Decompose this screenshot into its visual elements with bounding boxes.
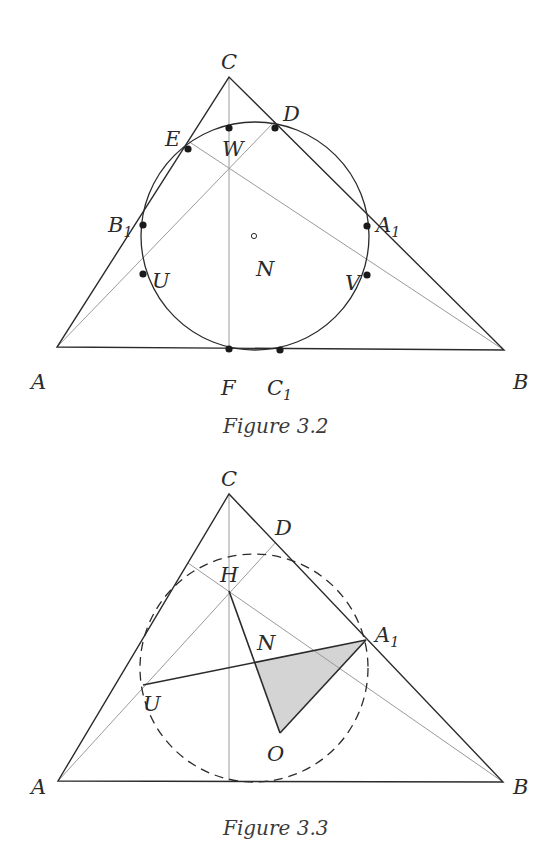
point-b1 [139,221,146,228]
label-c1: C1 [267,376,292,403]
point-a1 [363,222,370,229]
point-d [271,124,278,131]
label-h: H [219,563,239,587]
label-u: U [143,692,162,716]
label-c: C [221,467,237,491]
label-o: O [267,742,284,766]
label-b: B [512,370,528,394]
altitude-a [58,542,276,781]
label-e: E [164,127,180,151]
label-a: A [29,370,46,394]
label-v: V [345,271,362,295]
point-e [184,145,191,152]
label-a1: A1 [373,623,399,650]
label-d: D [274,516,292,540]
label-b1: B1 [107,213,132,240]
label-b: B [512,775,528,799]
center-n-point [251,233,256,238]
label-a: A [29,775,46,799]
label-c: C [221,50,237,74]
figures-canvas: C D E W B1 A1 U V N A B F C1 Figure 3.2 … [0,0,549,844]
point-v [363,271,370,278]
label-f: F [220,376,237,400]
label-n: N [256,631,276,655]
label-a1: A1 [374,213,400,240]
label-w: W [222,137,246,161]
altitude-b [188,563,503,782]
label-n: N [255,257,275,281]
label-d: D [282,102,300,126]
point-u [139,270,146,277]
point-w [225,124,232,131]
label-u: U [152,269,171,293]
figure-3-2: C D E W B1 A1 U V N A B F C1 Figure 3.2 [29,50,528,438]
point-f [225,345,232,352]
altitude-be [188,141,504,350]
triangle-abc [57,77,504,350]
figure-3-3: C D H N A1 U O A B Figure 3.3 [29,467,528,840]
point-c1 [276,346,283,353]
caption-figure-3-3: Figure 3.3 [222,816,329,840]
caption-figure-3-2: Figure 3.2 [222,414,329,438]
